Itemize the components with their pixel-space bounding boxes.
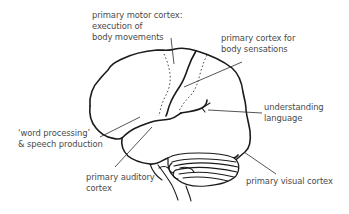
leader-sensory-cortex <box>184 62 242 87</box>
lateral-sulcus <box>181 100 210 113</box>
label-sensory-cortex-line1: primary cortex for <box>221 33 295 44</box>
label-word-processing-line2: & speech production <box>18 139 103 150</box>
label-auditory-cortex: primary auditory cortex <box>86 172 155 194</box>
label-word-processing: ‘word processing’ & speech production <box>18 128 103 150</box>
label-motor-cortex-line2: execution of <box>92 21 182 32</box>
label-word-processing-line1: ‘word processing’ <box>18 128 103 139</box>
leader-word-processing <box>100 117 140 137</box>
label-auditory-cortex-line2: cortex <box>86 183 155 194</box>
leader-language <box>208 110 262 113</box>
label-language-line2: language <box>264 113 324 124</box>
label-visual-cortex: primary visual cortex <box>246 176 333 187</box>
label-sensory-cortex-line2: body sensations <box>221 44 295 55</box>
label-language-line1: understanding <box>264 102 324 113</box>
label-motor-cortex: primary motor cortex: execution of body … <box>92 10 182 43</box>
label-motor-cortex-line3: body movements <box>92 32 182 43</box>
dotted-boundaries <box>159 54 207 116</box>
label-auditory-cortex-line1: primary auditory <box>86 172 155 183</box>
label-visual-cortex-line1: primary visual cortex <box>246 176 333 187</box>
label-motor-cortex-line1: primary motor cortex: <box>92 10 182 21</box>
cerebellum <box>168 153 239 186</box>
leader-auditory-cortex <box>115 127 152 167</box>
leader-visual-cortex <box>244 152 276 174</box>
label-sensory-cortex: primary cortex for body sensations <box>221 33 295 55</box>
label-understanding-language: understanding language <box>264 102 324 124</box>
